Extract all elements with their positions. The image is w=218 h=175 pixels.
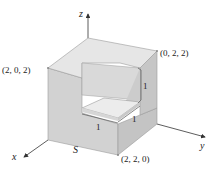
vertex-dot [117, 154, 119, 156]
dim-depth-label: 1 [132, 114, 137, 124]
x-axis-label: x [11, 151, 17, 162]
y-axis [157, 124, 205, 137]
dim-height-label: 1 [143, 81, 148, 91]
x-axis [24, 140, 48, 157]
diagram-canvas: z y x S (2, 0, 2) (0, 2, 2) (2, 2, 0) 1 … [0, 0, 218, 175]
vertex-dot [47, 67, 49, 69]
vertex-label-2-0-2: (2, 0, 2) [2, 65, 31, 75]
y-axis-label: y [199, 140, 205, 151]
vertex-dot [156, 50, 158, 52]
dim-width-label: 1 [96, 122, 101, 132]
vertex-label-2-2-0: (2, 2, 0) [121, 154, 150, 164]
cube-notch-diagram: z y x S (2, 0, 2) (0, 2, 2) (2, 2, 0) 1 … [0, 0, 218, 175]
vertex-label-0-2-2: (0, 2, 2) [160, 48, 189, 58]
z-axis-label: z [78, 8, 83, 19]
surface-label: S [73, 144, 78, 155]
